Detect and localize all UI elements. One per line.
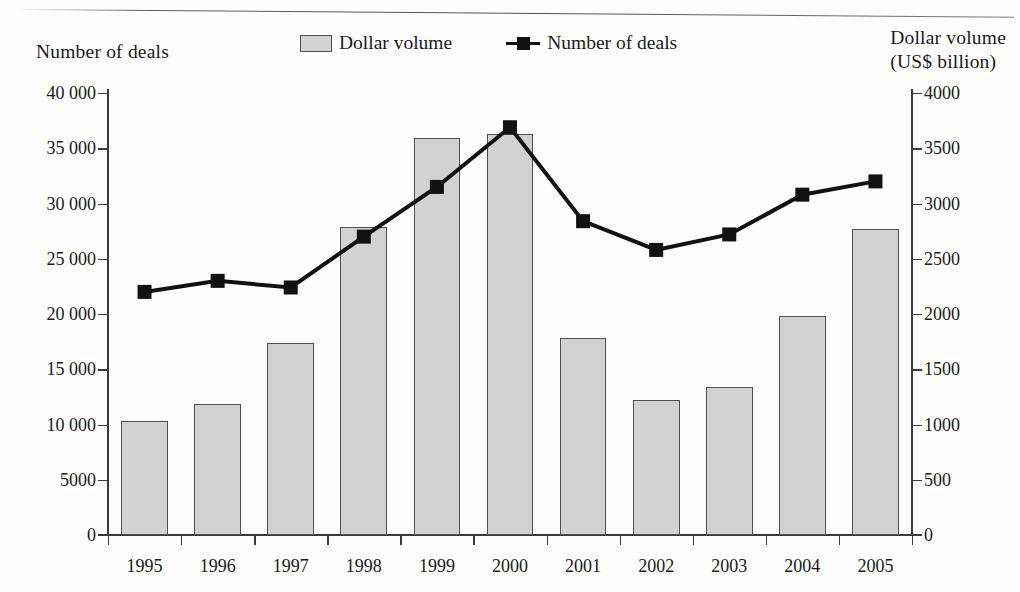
right-axis-tick-label: 0 (924, 525, 933, 546)
left-axis-tick-label: 40 000 (47, 83, 97, 104)
x-axis-tick-label: 2001 (565, 556, 601, 577)
x-axis-tick-label: 2000 (492, 556, 528, 577)
left-axis-tick (98, 369, 107, 370)
x-axis-tick (181, 535, 182, 545)
line-marker (138, 285, 152, 299)
x-axis-tick (620, 535, 621, 545)
right-axis-tick (913, 480, 922, 481)
right-axis-tick-label: 2500 (924, 248, 960, 269)
x-axis-tick (473, 535, 474, 545)
line-series-number-of-deals (108, 93, 912, 535)
right-axis-tick (913, 259, 922, 260)
x-axis-tick-label: 1999 (419, 556, 455, 577)
x-axis-tick (547, 535, 548, 545)
x-axis-tick-label: 2002 (638, 556, 674, 577)
right-axis-tick (913, 369, 922, 370)
line-marker (722, 227, 736, 241)
x-axis-tick (108, 535, 109, 545)
x-axis-tick (693, 535, 694, 545)
bar-swatch-icon (300, 35, 332, 52)
line-marker (503, 120, 517, 134)
line-marker (284, 280, 298, 294)
left-axis-tick-label: 10 000 (47, 414, 97, 435)
left-axis-tick (98, 425, 107, 426)
right-axis-tick-label: 1500 (924, 359, 960, 380)
x-axis-tick-label: 2005 (857, 556, 893, 577)
left-axis-title: Number of deals (36, 40, 169, 64)
left-axis-tick (98, 93, 107, 94)
left-axis-tick-label: 5000 (60, 469, 96, 490)
left-axis-tick-label: 15 000 (47, 359, 97, 380)
right-axis-tick-label: 3000 (924, 193, 960, 214)
left-axis-tick-label: 35 000 (47, 138, 97, 159)
x-axis-tick-label: 1996 (200, 556, 236, 577)
right-axis-tick-label: 500 (924, 469, 951, 490)
left-axis-tick-label: 30 000 (47, 193, 97, 214)
line-marker (357, 230, 371, 244)
x-axis-tick-label: 1995 (127, 556, 163, 577)
x-axis-tick (327, 535, 328, 545)
left-axis-tick (98, 148, 107, 149)
x-axis-tick (254, 535, 255, 545)
chart-legend: Dollar volume Number of deals (300, 32, 677, 54)
chart-figure: Number of deals Dollar volume (US$ billi… (0, 0, 1020, 592)
line-marker (430, 180, 444, 194)
left-axis-tick (98, 535, 107, 536)
right-axis-tick (913, 204, 922, 205)
right-axis-tick-label: 2000 (924, 304, 960, 325)
line-path (145, 127, 876, 292)
line-marker (795, 188, 809, 202)
line-marker (211, 274, 225, 288)
right-axis-tick (913, 425, 922, 426)
left-axis-tick (98, 314, 107, 315)
x-axis-tick (839, 535, 840, 545)
left-axis-tick (98, 480, 107, 481)
x-axis-tick (766, 535, 767, 545)
right-axis-tick (913, 535, 922, 536)
left-axis-tick (98, 259, 107, 260)
right-axis-title: Dollar volume (US$ billion) (890, 26, 1006, 75)
right-axis-tick (913, 314, 922, 315)
left-axis-tick (98, 204, 107, 205)
right-axis-tick-label: 1000 (924, 414, 960, 435)
x-axis-tick-label: 1997 (273, 556, 309, 577)
x-axis-tick (912, 535, 913, 545)
legend-item-dollar-volume: Dollar volume (300, 32, 452, 54)
left-axis-tick-label: 20 000 (47, 304, 97, 325)
plot-area: 0500010 00015 00020 00025 00030 00035 00… (108, 93, 912, 535)
legend-item-number-of-deals: Number of deals (506, 32, 677, 54)
right-axis-tick-label: 4000 (924, 83, 960, 104)
legend-label-number-of-deals: Number of deals (547, 32, 677, 54)
x-axis-tick-label: 2003 (711, 556, 747, 577)
x-axis-tick (400, 535, 401, 545)
line-marker (649, 243, 663, 257)
line-marker (868, 174, 882, 188)
x-axis-tick-label: 1998 (346, 556, 382, 577)
left-axis-tick-label: 25 000 (47, 248, 97, 269)
x-axis-tick-label: 2004 (784, 556, 820, 577)
legend-label-dollar-volume: Dollar volume (339, 32, 452, 54)
line-square-marker-icon (506, 36, 540, 50)
line-marker (576, 214, 590, 228)
right-axis-tick-label: 3500 (924, 138, 960, 159)
right-axis-tick (913, 148, 922, 149)
right-axis-tick (913, 93, 922, 94)
page-scan-line (18, 9, 1014, 18)
left-axis-tick-label: 0 (87, 525, 96, 546)
